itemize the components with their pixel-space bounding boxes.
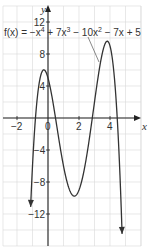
x-tick-label: −2 bbox=[11, 121, 23, 132]
x-tick-label: 0 bbox=[45, 121, 51, 132]
arrowhead-icon bbox=[119, 227, 125, 234]
y-tick-label: −8 bbox=[34, 177, 46, 188]
y-tick-label: 8 bbox=[39, 49, 45, 60]
y-tick-label: 4 bbox=[39, 81, 45, 92]
grid-lines bbox=[3, 6, 141, 246]
function-label: f(x) = −x4 + 7x3 − 10x2 − 7x + 5 bbox=[4, 26, 141, 38]
x-axis-label: x bbox=[141, 120, 147, 132]
y-tick-label: −4 bbox=[34, 145, 46, 156]
x-tick-label: 4 bbox=[107, 121, 113, 132]
plot-area: −20241284−4−8−12 f(x) = −x4 + 7x3 − 10x2… bbox=[0, 0, 153, 251]
axes bbox=[3, 5, 141, 246]
x-axis-arrow-icon bbox=[134, 115, 141, 121]
function-graph: −20241284−4−8−12 f(x) = −x4 + 7x3 − 10x2… bbox=[0, 0, 153, 251]
y-tick-label: −12 bbox=[28, 209, 45, 220]
y-axis-label: y bbox=[40, 3, 46, 15]
x-tick-label: 2 bbox=[76, 121, 82, 132]
arrowhead-icon bbox=[28, 200, 34, 207]
label-leader-line bbox=[88, 37, 99, 62]
